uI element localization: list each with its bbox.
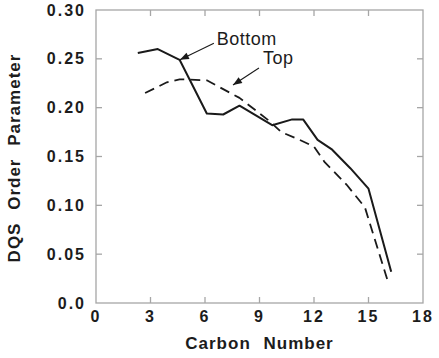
- dqs-order-parameter-figure: 03691215180.00.050.100.150.200.250.30Bot…: [0, 0, 439, 358]
- y-tick-label-0.30: 0.30: [47, 2, 86, 19]
- annotation-top-label: Top: [263, 48, 294, 68]
- plot-frame: [96, 10, 423, 303]
- annotation-bottom-arrowhead-icon: [180, 53, 190, 60]
- y-tick-label-0.25: 0.25: [47, 50, 86, 67]
- x-tick-label-12: 12: [303, 308, 325, 325]
- series-bottom-line: [138, 49, 391, 272]
- y-tick-label-0.10: 0.10: [47, 197, 86, 214]
- y-tick-label-0.20: 0.20: [47, 99, 86, 116]
- y-tick-label-0.05: 0.05: [47, 246, 86, 263]
- x-tick-label-15: 15: [358, 308, 380, 325]
- y-tick-label-0.15: 0.15: [47, 148, 86, 165]
- line-chart: 03691215180.00.050.100.150.200.250.30Bot…: [0, 0, 439, 358]
- x-tick-label-6: 6: [200, 308, 211, 325]
- series-top-line: [145, 79, 388, 283]
- annotation-bottom-label: Bottom: [217, 29, 277, 49]
- x-axis-title: Carbon Number: [96, 334, 423, 354]
- x-tick-label-18: 18: [412, 308, 434, 325]
- x-tick-label-3: 3: [145, 308, 156, 325]
- y-tick-label-0.0: 0.0: [58, 295, 86, 312]
- annotation-top-arrowhead-icon: [233, 77, 242, 85]
- y-axis-title: DQS Order Parameter: [5, 54, 25, 263]
- x-tick-label-0: 0: [91, 308, 102, 325]
- x-tick-label-9: 9: [254, 308, 265, 325]
